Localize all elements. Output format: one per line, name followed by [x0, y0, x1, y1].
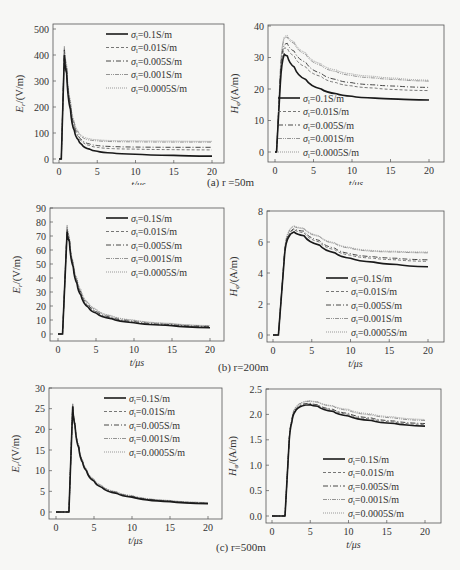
legend-label: σl=0.001S/m	[348, 494, 399, 506]
y-tick-label: 1.0	[250, 460, 263, 471]
x-tick-label: 0	[270, 526, 275, 537]
y-tick-label: 2.5	[250, 384, 263, 395]
x-axis-label: t/μs	[346, 539, 361, 550]
x-tick-label: 20	[420, 526, 430, 537]
y-tick-label: 2.0	[250, 409, 263, 420]
y-tick-label: 1.5	[250, 434, 263, 445]
legend-label: σl=0.005S/m	[348, 481, 399, 493]
x-tick-label: 10	[344, 526, 354, 537]
y-axis-label: Hφ/(A/m)	[227, 435, 240, 477]
chart-c-magnetic-field: 051015200.00.51.01.52.02.5t/μsHφ/(A/m)σl…	[0, 0, 460, 550]
legend-label: σl=0.1S/m	[348, 454, 389, 466]
y-tick-label: 0.5	[250, 485, 263, 496]
x-tick-label: 15	[382, 526, 392, 537]
y-tick-label: 0.0	[250, 511, 263, 522]
caption-c: (c) r=500m	[216, 541, 266, 553]
legend-label: σl=0.01S/m	[348, 467, 394, 479]
legend-label: σl=0.0005S/m	[348, 508, 404, 520]
x-tick-label: 5	[308, 526, 313, 537]
